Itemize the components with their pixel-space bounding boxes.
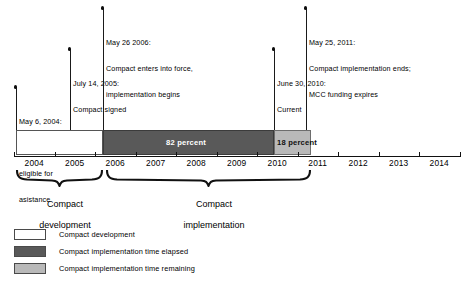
axis-year-label: 2012 [338,158,379,168]
axis-endcap-right [460,152,461,157]
legend-swatch-dark [14,246,46,257]
bar-compact-development [16,130,103,155]
axis-year-label: 2006 [95,158,136,168]
legend-swatch-light [14,263,46,274]
axis-year-label: 2013 [379,158,420,168]
milestone-line: implementation begins [101,91,193,100]
brace-implementation-shape [105,170,313,187]
milestone-line: MCC funding expires [304,91,411,100]
bar-label-time-elapsed: 82 percent [166,138,206,147]
axis-endcap-left [14,152,15,157]
brace-label-line: Compact [47,199,83,209]
axis-tick [419,152,420,157]
legend-swatch-white [14,229,46,240]
milestone-line: May 25, 2011: [304,39,411,48]
axis-tick [95,152,96,157]
brace-label-line: Compact [196,199,232,209]
axis-year-label: 2008 [176,158,217,168]
milestone-callout-implementation-ends: May 25, 2011: Compact implementation end… [304,5,411,117]
axis-tick [217,152,218,157]
legend-label: Compact development [59,229,135,240]
axis-year-label: 2007 [136,158,177,168]
axis-tick [338,152,339,157]
axis-tick [176,152,177,157]
axis-year-label: 2011 [298,158,339,168]
legend-label: Compact implementation time remaining [59,263,195,274]
brace-label-implementation: Compact implementation [104,188,314,241]
legend-label: Compact implementation time elapsed [59,246,188,257]
timeline-figure: May 6, 2004: Selected as eligible for as… [0,0,472,282]
milestone-stem-current [274,50,275,135]
axis-tick [298,152,299,157]
brace-label-line: implementation [183,220,244,230]
axis-tick [136,152,137,157]
axis-tick [257,152,258,157]
axis-tick [55,152,56,157]
axis-year-label: 2005 [55,158,96,168]
milestone-line: May 26 2006: [101,39,193,48]
milestone-stem-implementation-ends [306,9,307,133]
axis-year-label: 2014 [419,158,460,168]
axis-year-label: 2009 [217,158,258,168]
milestone-line: May 6, 2004: [14,118,62,127]
axis-year-label: 2010 [257,158,298,168]
brace-development-shape [15,170,105,187]
bar-label-time-remaining: 18 percent [277,138,317,147]
milestone-line: Compact implementation ends; [304,65,411,74]
milestone-line: Compact enters into force, [101,65,193,74]
milestone-stem-entry-into-force [103,9,104,133]
milestone-callout-entry-into-force: May 26 2006: Compact enters into force, … [101,5,193,117]
axis-year-label: 2004 [14,158,55,168]
axis-tick [379,152,380,157]
